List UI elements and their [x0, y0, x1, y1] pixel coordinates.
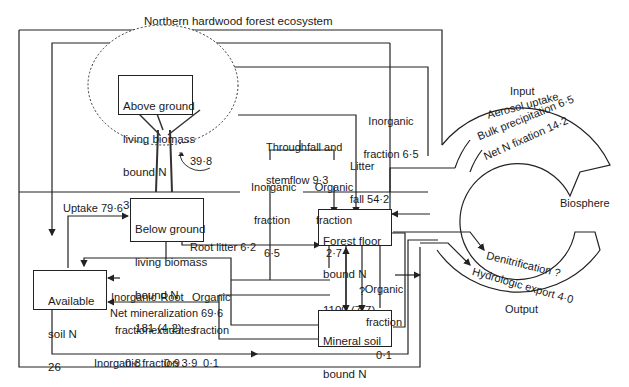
value: 0·1 [364, 350, 404, 361]
label: fraction [111, 325, 155, 336]
throughfall-organic-label: Organic fraction 2·7 [314, 160, 354, 270]
value: 0·1 [192, 358, 230, 369]
value: 6·5 [251, 248, 293, 259]
label: Above ground [123, 101, 188, 112]
above-ground-biomass-box: Above ground living biomass bound N 351 … [118, 75, 193, 115]
label: exudates [151, 325, 193, 336]
label: living biomass [135, 257, 199, 268]
label: Organic [314, 182, 354, 193]
label: Root [151, 292, 193, 303]
label: Available [48, 296, 102, 307]
inorganic-top-label: Inorganic fraction 6·5 [363, 94, 419, 171]
diagram-title: Northern hardwood forest ecosystem [144, 16, 333, 27]
biosphere-label: Biosphere [560, 198, 610, 209]
root-litter-label: Root litter 6·2 [190, 242, 256, 253]
label: bound N [123, 167, 188, 178]
value: 2·7 [314, 248, 354, 259]
label: fraction [192, 325, 230, 336]
label: Inorganic [251, 182, 293, 193]
label: Inorganic [111, 292, 155, 303]
label: Below ground [135, 224, 199, 235]
unknown-flow-label: ? [359, 286, 365, 297]
label: Throughfall and [266, 142, 342, 153]
label: fall 54·2 [350, 194, 389, 205]
internal-cycle-value: 39·8 [190, 156, 212, 167]
net-mineralization-label: Net mineralization 69·6 [110, 308, 223, 319]
label: fraction 6·5 [363, 149, 419, 160]
uptake-label: Uptake 79·6 [63, 203, 123, 214]
exudates-organic-label: Organic fraction 0·1 [192, 270, 230, 380]
inorganic-bottom-label: Inorganic fraction 3·9 [94, 358, 197, 369]
label: Organic [192, 292, 230, 303]
forest-floor-organic-label: Organic fraction 0·1 [364, 262, 404, 372]
label: living biomass [123, 134, 188, 145]
throughfall-inorganic-label: Inorganic fraction 6·5 [251, 160, 293, 270]
below-ground-biomass-box: Below ground living biomass bound N 181 … [130, 198, 204, 242]
output-label: Output [505, 304, 538, 315]
label: Inorganic [363, 116, 419, 127]
label: fraction [314, 215, 354, 226]
available-soil-box: Available soil N 26 [33, 270, 107, 310]
label: fraction [251, 215, 293, 226]
label: soil N [48, 329, 102, 340]
input-label: Input [510, 86, 534, 97]
label: fraction [364, 317, 404, 328]
label: Organic [364, 284, 404, 295]
